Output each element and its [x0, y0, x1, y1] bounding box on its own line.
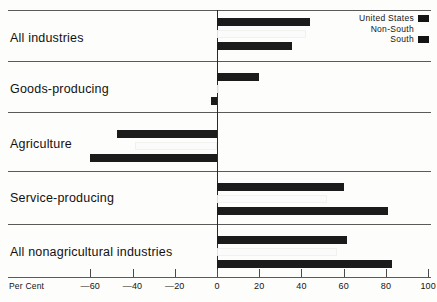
bar-south-group-2: [90, 154, 217, 162]
separator-rule-4: [8, 224, 431, 225]
bar-non-south-group-2: [135, 142, 217, 150]
x-axis-tick--40: [133, 269, 134, 277]
bar-non-south-group-1: [217, 85, 219, 93]
legend-swatch-south-icon: [418, 36, 429, 43]
bar-non-south-group-3: [217, 195, 327, 203]
legend-item-united-states: United States: [359, 13, 429, 24]
x-axis-tick-label-60: 60: [339, 281, 349, 291]
x-axis-tick-100: [428, 269, 429, 277]
legend-swatch-united-states-icon: [418, 15, 429, 22]
category-label-all-industries: All industries: [10, 31, 84, 45]
bar-south-group-4: [217, 260, 392, 268]
x-axis-tick-label--60: —60: [80, 281, 100, 291]
bar-united-states-group-3: [217, 183, 344, 191]
x-axis-tick-0: [217, 269, 218, 277]
x-axis-line: [8, 277, 431, 278]
legend-label-united-states: United States: [359, 13, 414, 24]
x-axis-tick-label-0: 0: [214, 281, 219, 291]
legend-item-non-south: Non-South: [359, 24, 429, 35]
category-label-all-nonagricultural-industries: All nonagricultural industries: [10, 245, 172, 259]
separator-rule-1: [8, 61, 431, 62]
x-axis-tick-80: [386, 269, 387, 277]
bar-south-group-3: [217, 207, 388, 215]
category-label-agriculture: Agriculture: [10, 137, 72, 151]
separator-rule-3: [8, 171, 431, 172]
x-axis-tick--60: [90, 269, 91, 277]
legend-item-south: South: [359, 34, 429, 45]
x-axis-tick-label--20: —20: [165, 281, 185, 291]
x-axis-tick-label-80: 80: [381, 281, 391, 291]
bar-non-south-group-4: [217, 248, 337, 256]
separator-rule-2: [8, 112, 431, 113]
x-axis-tick-label-100: 100: [420, 281, 436, 291]
x-axis-tick-label--40: —40: [123, 281, 143, 291]
x-axis-title: Per Cent: [9, 281, 44, 291]
x-axis-tick-label-20: 20: [254, 281, 264, 291]
category-label-goods-producing: Goods-producing: [10, 82, 109, 96]
chart-legend: United States Non-South South: [359, 13, 429, 45]
bar-non-south-group-0: [217, 30, 306, 38]
legend-swatch-non-south-icon: [418, 25, 429, 32]
legend-label-non-south: Non-South: [371, 24, 414, 35]
bar-united-states-group-2: [117, 130, 217, 138]
bar-south-group-1: [211, 97, 217, 105]
bar-south-group-0: [217, 42, 292, 50]
bar-united-states-group-1: [217, 73, 259, 81]
chart-canvas: All industries Goods-producing Agricultu…: [0, 0, 437, 302]
x-axis-tick-label-40: 40: [296, 281, 306, 291]
bar-united-states-group-4: [217, 236, 347, 244]
x-axis-tick-40: [301, 269, 302, 277]
x-axis-tick-20: [259, 269, 260, 277]
x-axis-tick--20: [175, 269, 176, 277]
legend-label-south: South: [390, 34, 414, 45]
bar-united-states-group-0: [217, 18, 310, 26]
x-axis-tick-60: [344, 269, 345, 277]
category-label-service-producing: Service-producing: [10, 191, 114, 205]
separator-rule-top: [8, 10, 431, 11]
